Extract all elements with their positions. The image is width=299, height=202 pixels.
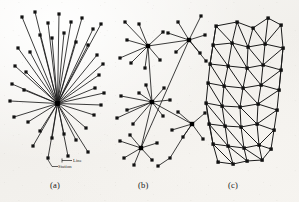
panel-b-hub-5 — [139, 146, 143, 150]
panel-b-hub-4 — [190, 122, 194, 126]
panel-b-hub-1 — [146, 44, 150, 48]
panel-a-central-station — [55, 101, 60, 106]
panel-b-hub-2 — [187, 38, 191, 42]
panel-b-edges — [117, 16, 206, 166]
annotation-line-label: Line — [73, 157, 82, 162]
figure-root: Line Station (a) (b) (c) — [0, 0, 299, 202]
panel-a-star-network — [8, 10, 105, 166]
network-diagram-svg — [0, 0, 299, 202]
panel-b-tree-network — [115, 14, 207, 167]
annotation-station-label: Station — [58, 163, 72, 168]
panel-c-edges — [206, 18, 283, 164]
caption-panel-c: (c) — [228, 180, 238, 190]
caption-panel-b: (b) — [138, 180, 149, 190]
panel-b-hub-3 — [150, 100, 154, 104]
caption-panel-a: (a) — [50, 180, 60, 190]
panel-c-mesh-network — [204, 16, 284, 165]
panel-a-edges — [10, 12, 104, 158]
